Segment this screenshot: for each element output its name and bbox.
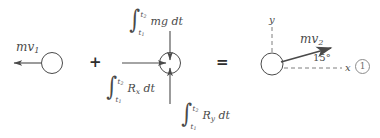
final-momentum-label: mv2: [300, 33, 323, 46]
rx-upper-limit-sub: 2: [120, 81, 123, 86]
x-axis-label: x: [345, 63, 351, 73]
impulse-momentum-diagram: mv1 + ∫t2t1mg dt ∫t2t1Rx dt ∫t2t1Ry dt =…: [0, 0, 380, 138]
y-axis-label: y: [269, 15, 275, 25]
initial-momentum-label: mv1: [16, 41, 39, 54]
reaction-x-impulse-expression: ∫t2t1Rx dt: [105, 73, 155, 99]
rx-integrand-subscript: x: [136, 87, 140, 96]
body-circle-initial: [42, 53, 63, 74]
weight-impulse-expression: ∫t2t1mg dt: [128, 6, 183, 32]
equals-operator: =: [216, 55, 229, 70]
rx-integrand-R: R: [128, 82, 136, 95]
plus-operator: +: [89, 55, 102, 70]
body-circle-final: [261, 53, 283, 75]
ry-lower-limit-sub: 1: [193, 126, 196, 131]
ry-integrand-R: R: [203, 109, 211, 122]
weight-integrand: mg dt: [151, 15, 183, 28]
initial-momentum-subscript: 1: [34, 45, 39, 55]
equation-number-badge: 1: [355, 59, 370, 74]
reaction-y-impulse-expression: ∫t2t1Ry dt: [180, 100, 230, 126]
final-momentum-subscript: 2: [318, 37, 323, 47]
weight-upper-limit-sub: 2: [143, 14, 146, 19]
ry-integrand-dt: dt: [219, 109, 230, 122]
initial-momentum-m: m: [16, 40, 27, 54]
rx-lower-limit-sub: 1: [118, 99, 121, 104]
angle-label: 15°: [313, 53, 331, 63]
ry-upper-limit-sub: 2: [195, 108, 198, 113]
ry-integrand-subscript: y: [211, 114, 215, 123]
rx-integrand-dt: dt: [144, 82, 155, 95]
final-momentum-m: m: [300, 32, 311, 46]
weight-lower-limit-sub: 1: [141, 32, 144, 37]
